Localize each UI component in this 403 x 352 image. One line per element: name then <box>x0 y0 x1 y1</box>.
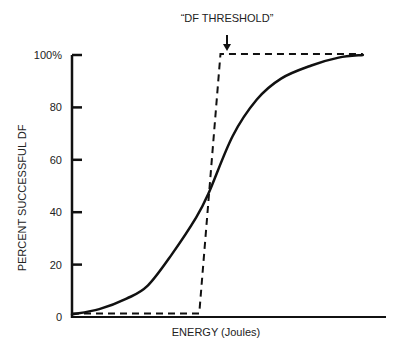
sigmoid-curve <box>72 55 363 314</box>
y-tick-label: 0 <box>56 311 62 323</box>
y-axis-label: PERCENT SUCCESSFUL DF <box>16 124 28 271</box>
step-threshold-line <box>72 54 363 313</box>
y-tick-label: 100% <box>34 49 62 61</box>
chart: “DF THRESHOLD” PERCENT SUCCESSFUL DF ENE… <box>0 0 403 352</box>
y-tick-label: 40 <box>50 206 62 218</box>
axes <box>71 55 386 318</box>
threshold-annotation: “DF THRESHOLD” <box>181 12 274 24</box>
y-ticks: 020406080100% <box>34 49 82 323</box>
y-tick-label: 20 <box>50 259 62 271</box>
threshold-arrow-icon <box>223 35 231 51</box>
x-axis-label: ENERGY (Joules) <box>172 326 260 338</box>
y-tick-label: 80 <box>50 101 62 113</box>
y-tick-label: 60 <box>50 154 62 166</box>
